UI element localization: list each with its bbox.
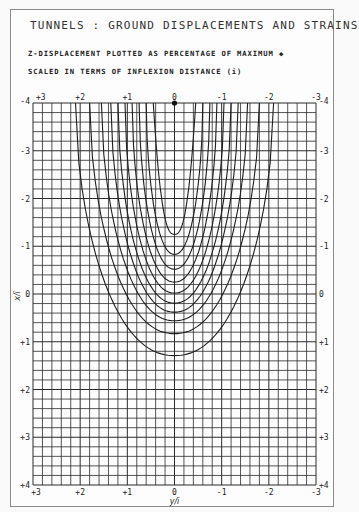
y-tick-left: +1 (20, 338, 30, 347)
grid (33, 103, 316, 485)
y-tick-right: +4 (319, 481, 329, 490)
y-tick-left: +4 (20, 481, 30, 490)
x-tick-bottom: +2 (75, 488, 85, 497)
y-tick-right: +1 (319, 338, 329, 347)
y-tick-left: +2 (20, 386, 30, 395)
y-tick-right: +2 (319, 386, 329, 395)
y-tick-left: 0 (25, 290, 30, 299)
x-tick-bottom: -2 (264, 488, 274, 497)
x-axis-label: y/i (169, 497, 180, 506)
x-tick-top: +2 (75, 93, 85, 102)
x-tick-top: -1 (217, 93, 227, 102)
y-tick-left: -2 (20, 195, 30, 204)
y-tick-left: -4 (20, 97, 30, 106)
y-tick-right: +3 (319, 433, 329, 442)
maximum-marker-icon (172, 100, 177, 105)
y-tick-left: -3 (20, 147, 30, 156)
y-axis-label: x/i (13, 290, 22, 301)
y-tick-right: -4 (319, 97, 329, 106)
y-tick-right: -3 (319, 147, 329, 156)
x-tick-top: -2 (264, 93, 274, 102)
x-tick-top: +3 (36, 93, 46, 102)
x-tick-bottom: 0 (172, 488, 177, 497)
y-tick-left: -1 (20, 242, 30, 251)
y-tick-right: -2 (319, 195, 329, 204)
x-tick-bottom: +1 (123, 488, 133, 497)
y-tick-right: 0 (319, 290, 324, 299)
y-tick-right: -1 (319, 242, 329, 251)
y-tick-left: +3 (20, 433, 30, 442)
x-tick-bottom: -1 (217, 488, 227, 497)
x-tick-bottom: +3 (31, 488, 41, 497)
x-tick-top: +1 (123, 93, 133, 102)
